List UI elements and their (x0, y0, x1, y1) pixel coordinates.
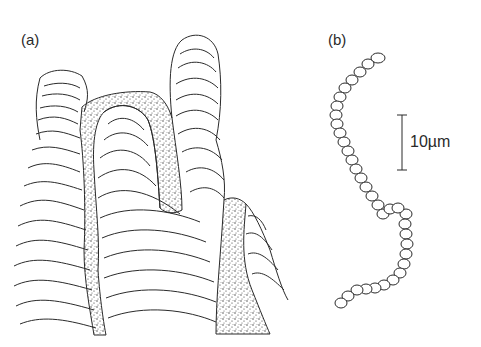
scale-bar (397, 115, 407, 170)
panel-a-drawing (14, 35, 288, 335)
stippled-infill-right (216, 198, 270, 334)
panel-b-cell-chain (330, 53, 413, 308)
figure-drawing (0, 0, 481, 347)
small-column-outline (246, 204, 288, 300)
stippled-infill-arch (80, 92, 182, 335)
right-column-layers (176, 49, 224, 198)
small-column-layers (246, 216, 284, 290)
left-column-outline (40, 70, 88, 112)
